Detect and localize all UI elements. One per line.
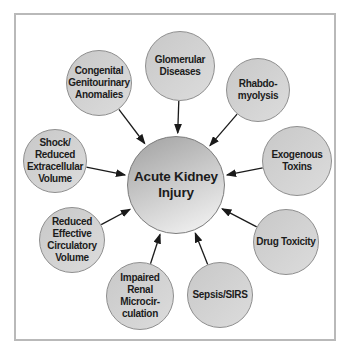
node-sepsis-sirs: Sepsis/SIRS xyxy=(187,262,253,328)
arrow-rhabdo-to-center xyxy=(210,114,237,145)
node-shock-reduced-extracellular-volume: Shock/ Reduced Extracellular Volume xyxy=(23,129,87,193)
arrow-shock-to-center xyxy=(86,167,125,175)
arrow-congenital-to-center xyxy=(119,109,145,143)
node-exogenous-toxins: Exogenous Toxins xyxy=(262,126,332,196)
node-label: Shock/ Reduced Extracellular Volume xyxy=(27,137,83,184)
node-label: Glomerular Diseases xyxy=(155,54,205,78)
arrow-glomerular-to-center xyxy=(178,101,179,133)
arrow-drug-to-center xyxy=(222,209,257,227)
arrow-impaired-to-center xyxy=(151,235,161,264)
node-label: Drug Toxicity xyxy=(256,236,315,248)
node-congenital-genitourinary-anomalies: Congenital Genitourinary Anomalies xyxy=(66,50,132,116)
node-label: Impaired Renal Microcir- culation xyxy=(120,272,160,319)
node-drug-toxicity: Drug Toxicity xyxy=(253,209,319,275)
arrow-reduced-to-center xyxy=(101,209,130,224)
node-label: Congenital Genitourinary Anomalies xyxy=(68,65,130,100)
node-label: Reduced Effective Circulatory Volume xyxy=(47,216,97,263)
node-label: Rhabdo- myolysis xyxy=(238,78,278,102)
arrow-exogenous-to-center xyxy=(227,168,263,175)
node-label: Sepsis/SIRS xyxy=(192,289,247,301)
node-reduced-effective-circulatory-volume: Reduced Effective Circulatory Volume xyxy=(39,207,105,273)
center-node-label: Acute Kidney Injury xyxy=(134,169,218,201)
node-glomerular-diseases: Glomerular Diseases xyxy=(145,31,215,101)
figure: Glomerular Diseases Rhabdo- myolysis Exo… xyxy=(0,0,350,358)
node-label: Exogenous Toxins xyxy=(271,149,322,173)
arrow-sepsis-to-center xyxy=(195,233,207,264)
node-acute-kidney-injury: Acute Kidney Injury xyxy=(127,136,225,234)
node-rhabdomyolysis: Rhabdo- myolysis xyxy=(226,58,290,122)
node-impaired-renal-microcirculation: Impaired Renal Microcir- culation xyxy=(106,262,174,330)
